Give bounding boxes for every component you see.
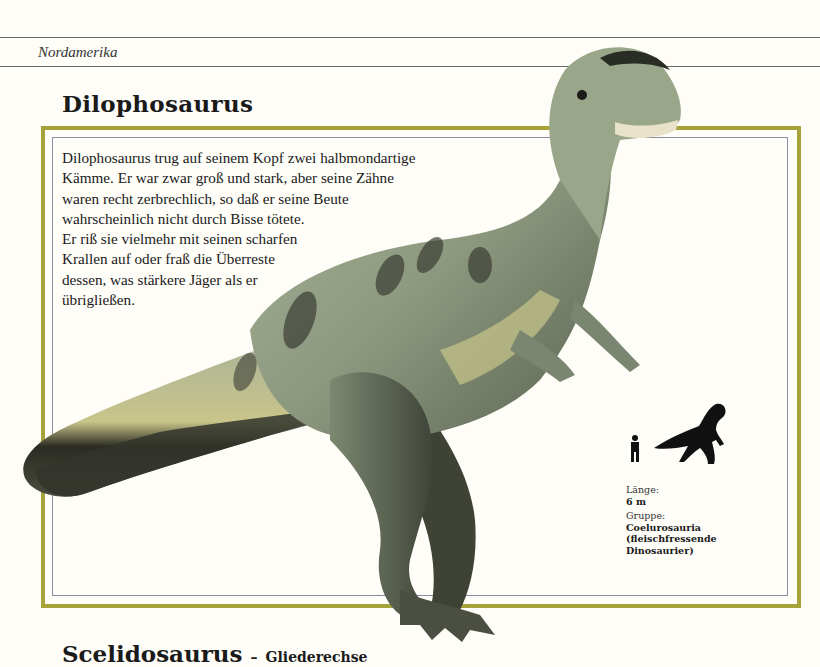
next-entry-title: Scelidosaurus [62, 640, 243, 667]
length-label: Länge: [626, 484, 717, 496]
dilophosaurus-illustration [0, 0, 820, 667]
dinosaur-silhouette-icon [654, 404, 726, 464]
facts-panel: Länge: 6 m Gruppe: Coelurosauria (fleisc… [626, 484, 717, 556]
human-silhouette-icon [631, 435, 639, 462]
group-value: Dinosaurier) [626, 545, 717, 557]
next-entry-subtitle: Gliederechse [266, 649, 368, 665]
group-label: Gruppe: [626, 510, 717, 522]
group-value: Coelurosauria [626, 522, 717, 534]
next-entry-heading: Scelidosaurus – Gliederechse [62, 640, 368, 667]
length-value: 6 m [626, 496, 717, 508]
group-value: (fleischfressende [626, 533, 717, 545]
next-entry-separator: – [251, 649, 258, 665]
size-comparison-silhouettes [624, 396, 734, 468]
